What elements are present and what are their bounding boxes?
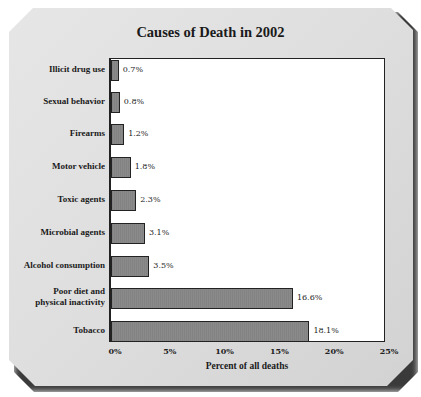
value-label: 2.3%	[140, 195, 160, 204]
category-label: Microbial agents	[40, 227, 105, 238]
bar	[111, 321, 309, 342]
category-label: Toxic agents	[58, 194, 105, 205]
value-label: 1.8%	[135, 162, 155, 171]
category-label: Tobacco	[73, 325, 105, 336]
bar	[111, 92, 120, 113]
chart-title: Causes of Death in 2002	[0, 24, 421, 41]
category-label: Sexual behavior	[43, 96, 105, 107]
value-label: 16.6%	[297, 293, 322, 302]
category-label: Poor diet and physical inactivity	[35, 286, 105, 308]
value-label: 3.1%	[149, 228, 169, 237]
category-label: Alcohol consumption	[24, 260, 105, 271]
bar	[111, 190, 136, 211]
x-tick-label: 0%	[108, 346, 121, 356]
value-label: 18.1%	[313, 326, 338, 335]
bar	[111, 124, 124, 145]
x-tick-label: 15%	[270, 346, 289, 356]
bar	[111, 223, 145, 244]
value-label: 3.5%	[153, 261, 173, 270]
bar	[111, 288, 293, 309]
value-label: 0.7%	[123, 65, 143, 74]
x-tick-label: 10%	[215, 346, 234, 356]
x-tick-label: 5%	[163, 346, 176, 356]
x-tick-label: 25%	[380, 346, 399, 356]
value-label: 0.8%	[124, 97, 144, 106]
plot-area: 0.7%0.8%1.2%1.8%2.3%3.1%3.5%16.6%18.1%	[109, 58, 385, 342]
x-tick-label: 20%	[325, 346, 344, 356]
category-label: Firearms	[70, 128, 105, 139]
bar	[111, 60, 119, 81]
category-label: Illicit drug use	[49, 64, 105, 75]
x-axis-label: Percent of all deaths	[109, 361, 385, 371]
category-label: Motor vehicle	[52, 161, 105, 172]
value-label: 1.2%	[128, 129, 148, 138]
bar	[111, 256, 149, 277]
bar	[111, 157, 131, 178]
